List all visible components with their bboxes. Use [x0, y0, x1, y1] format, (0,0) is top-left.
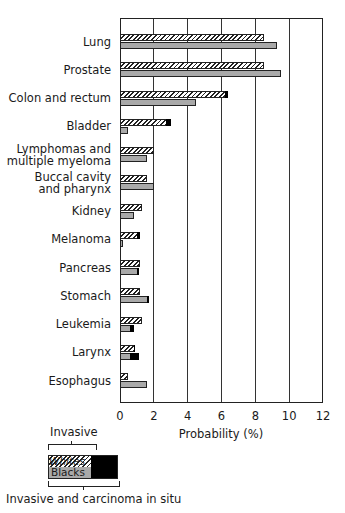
category-label: Prostate	[64, 64, 111, 76]
bar-whites	[120, 260, 140, 267]
x-tick-label: 6	[218, 409, 225, 423]
legend-box: Whites Blacks	[48, 455, 118, 479]
bar-whites	[120, 62, 264, 69]
category-label: Colon and rectum	[9, 92, 111, 104]
bar-whites	[120, 91, 228, 98]
legend-blacks-swatch: Blacks	[49, 467, 91, 478]
category-label: Kidney	[72, 205, 111, 217]
x-tick-label: 0	[116, 409, 123, 423]
bar-in-situ-segment	[130, 353, 138, 360]
bar-blacks	[120, 155, 147, 162]
category-label: Larynx	[72, 346, 111, 358]
category-label: Leukemia	[56, 318, 111, 330]
x-tick-label: 10	[282, 409, 297, 423]
bar-blacks	[120, 353, 139, 360]
bar-whites	[120, 232, 140, 239]
x-tick-label: 2	[150, 409, 157, 423]
bar-whites	[120, 34, 264, 41]
legend-insitu-bracket	[48, 481, 120, 487]
category-label: Esophagus	[48, 375, 111, 387]
bar-blacks	[120, 212, 134, 219]
bar-whites	[120, 317, 142, 324]
x-tick-label: 8	[252, 409, 259, 423]
bar-whites	[120, 373, 128, 380]
bar-blacks	[120, 240, 123, 247]
bar-whites	[120, 345, 135, 352]
x-tick-label: 4	[184, 409, 191, 423]
bar-blacks	[120, 381, 147, 388]
bar-blacks	[120, 99, 196, 106]
bar-blacks	[120, 325, 134, 332]
bar-whites	[120, 147, 154, 154]
bar-whites	[120, 175, 147, 182]
bar-in-situ-segment	[147, 296, 149, 303]
legend-insitu-label: Invasive and carcinoma in situ	[6, 492, 181, 506]
bar-in-situ-segment	[137, 232, 140, 239]
bar-in-situ-segment	[225, 91, 228, 98]
category-label: Pancreas	[59, 262, 111, 274]
bar-whites	[120, 119, 171, 126]
x-axis-label: Probability (%)	[179, 427, 263, 441]
bar-whites	[120, 288, 140, 295]
bar-blacks	[120, 268, 139, 275]
category-label: Buccal cavityand pharynx	[35, 171, 111, 195]
bar-blacks	[120, 296, 149, 303]
cancer-probability-chart: LungProstateColon and rectumBladderLymph…	[0, 0, 345, 513]
bar-in-situ-segment	[130, 325, 133, 332]
legend-invasive-bracket-tick	[71, 441, 72, 445]
bar-in-situ-segment	[134, 345, 136, 352]
legend-invasive-bracket	[48, 444, 97, 450]
bar-blacks	[120, 42, 277, 49]
legend-insitu-bracket-tick	[83, 486, 84, 490]
bar-blacks	[120, 183, 154, 190]
bar-blacks	[120, 70, 281, 77]
category-label: Lung	[83, 36, 111, 48]
category-label: Bladder	[66, 120, 111, 132]
category-label: Stomach	[60, 290, 111, 302]
bar-in-situ-segment	[137, 268, 139, 275]
category-label: Lymphomas andmultiple myeloma	[7, 143, 111, 167]
bar-whites	[120, 204, 142, 211]
legend-invasive-label: Invasive	[50, 425, 98, 439]
bar-blacks	[120, 127, 128, 134]
bar-in-situ-segment	[166, 119, 171, 126]
x-tick-label: 12	[316, 409, 331, 423]
category-label: Melanoma	[51, 233, 111, 245]
